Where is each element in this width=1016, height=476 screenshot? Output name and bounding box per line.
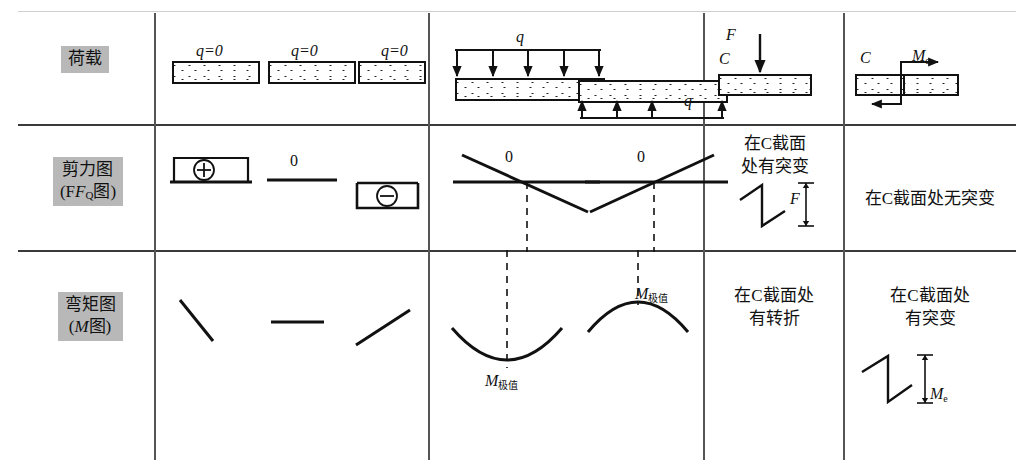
row-label-moment-line1: 弯矩图 — [65, 295, 116, 314]
couple-C-label: C — [860, 49, 871, 67]
shear-positive-block — [170, 158, 252, 182]
row-label-moment-m: M — [74, 317, 88, 336]
moment-extreme-sub-2: 极值 — [648, 293, 668, 304]
beam-point-load — [718, 74, 812, 96]
force-C-label: C — [719, 50, 730, 68]
beam-couple-section-C — [903, 76, 905, 94]
beam-q0-3 — [358, 61, 426, 84]
row-label-shear-line2-post: 图) — [93, 182, 116, 201]
figure-root: 荷载 剪力图 (FFQ图) 弯矩图 (M图) q=0 q=0 q=0 q q F… — [0, 0, 1016, 476]
shear-slope-qdown — [453, 155, 600, 252]
shear-zero-qdown: 0 — [505, 148, 513, 166]
row-label-shear-line1: 剪力图 — [62, 160, 113, 179]
moment-extreme-label-1: M极值 — [485, 372, 518, 392]
row-label-moment-line2-post: 图) — [89, 317, 112, 336]
moment-kink-text-l1: 在C截面处 — [734, 286, 813, 305]
couple-Me-sub: e — [925, 55, 929, 66]
moment-jump-Me-base: M — [930, 385, 943, 402]
row-label-moment-chip: 弯矩图 (M图) — [58, 292, 123, 341]
moment-line-up — [356, 310, 410, 345]
shear-zero-mid: 0 — [290, 152, 298, 170]
moment-kink-text: 在C截面处 有转折 — [706, 285, 842, 331]
beam-q-up — [578, 80, 728, 103]
diagram-vectors — [0, 0, 1016, 476]
row-label-load-text: 荷载 — [61, 46, 109, 73]
shear-jump-F-label: F — [790, 190, 800, 208]
moment-extreme-base-1: M — [485, 372, 498, 389]
table-top-rule — [18, 11, 1016, 12]
moment-parabola-sagging — [452, 250, 562, 368]
beam-q0-1 — [172, 61, 260, 84]
shear-negative-block — [357, 183, 418, 208]
moment-extreme-label-2: M极值 — [635, 285, 668, 305]
beam-couple — [855, 74, 959, 96]
shear-jump-zigzag — [740, 183, 814, 226]
moment-extreme-base-2: M — [635, 285, 648, 302]
row-label-shear-fq: F — [75, 182, 85, 201]
row-label-load: 荷载 — [54, 46, 116, 73]
col-rule-3 — [843, 13, 845, 460]
couple-Me-base: M — [912, 47, 925, 64]
moment-jump-Me-sub: e — [943, 393, 947, 404]
col-rule-labels — [154, 13, 156, 460]
row-label-shear-line2-pre: (F — [60, 182, 75, 201]
shear-zero-qup: 0 — [637, 148, 645, 166]
beam-q0-2 — [268, 61, 356, 84]
q-up-label: q — [684, 92, 692, 110]
moment-jump-text-l2: 有突变 — [905, 309, 956, 328]
moment-jump-text-l1: 在C截面处 — [890, 286, 969, 305]
row-label-moment: 弯矩图 (M图) — [44, 292, 136, 341]
q-zero-label-1: q=0 — [196, 42, 223, 60]
rule-shear-moment — [18, 250, 1016, 252]
row-label-shear: 剪力图 (FFQ图) — [42, 157, 134, 206]
shear-jump-text: 在C截面 处有突变 — [710, 133, 840, 179]
shear-jump-text-l1: 在C截面 — [744, 134, 806, 153]
moment-kink-text-l2: 有转折 — [749, 309, 800, 328]
rule-load-shear — [18, 124, 1016, 126]
couple-Me-label: Me — [912, 47, 930, 66]
q-down-arrow-group — [455, 50, 601, 76]
shear-slope-qup — [585, 155, 728, 252]
shear-no-jump-text: 在C截面处无突变 — [845, 188, 1015, 211]
row-label-shear-chip: 剪力图 (FFQ图) — [53, 157, 123, 206]
moment-jump-zigzag — [862, 355, 933, 403]
q-zero-label-3: q=0 — [381, 42, 408, 60]
shear-jump-text-l2: 处有突变 — [741, 157, 809, 176]
moment-extreme-sub-1: 极值 — [498, 380, 518, 391]
moment-jump-text: 在C截面处 有突变 — [846, 285, 1014, 331]
col-rule-1 — [428, 13, 430, 460]
force-F-label: F — [726, 26, 736, 44]
moment-jump-Me-label: Me — [930, 385, 948, 404]
moment-line-down — [180, 300, 213, 341]
q-down-label: q — [516, 28, 524, 46]
q-zero-label-2: q=0 — [291, 42, 318, 60]
